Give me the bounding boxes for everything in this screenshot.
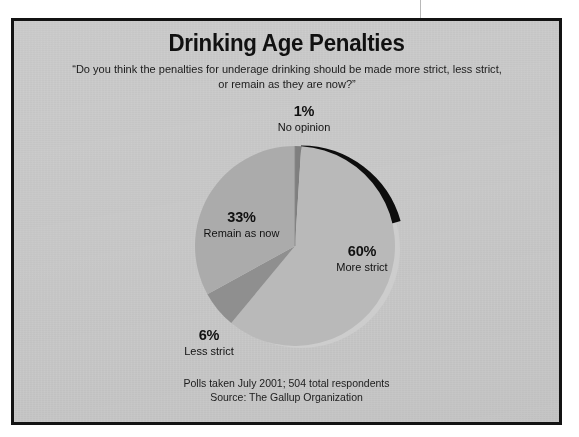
slice-name-no-opinion: No opinion <box>229 120 379 134</box>
slice-name-remain-as-now: Remain as now <box>164 226 319 240</box>
chart-subtitle-line-2: or remain as they are now?” <box>47 77 527 92</box>
slice-label-no-opinion: 1% No opinion <box>229 103 379 134</box>
chart-footer-line-1: Polls taken July 2001; 504 total respond… <box>14 376 559 390</box>
slice-name-less-strict: Less strict <box>139 344 279 358</box>
slice-label-remain-as-now: 33% Remain as now <box>164 209 319 240</box>
chart-subtitle: “Do you think the penalties for underage… <box>47 62 527 92</box>
slice-label-less-strict: 6% Less strict <box>139 327 279 358</box>
slice-value-remain-as-now: 33% <box>164 209 319 226</box>
slice-value-less-strict: 6% <box>139 327 279 344</box>
scan-line-artifact <box>420 0 421 19</box>
slice-value-more-strict: 60% <box>292 243 432 260</box>
chart-panel: Drinking Age Penalties “Do you think the… <box>11 18 562 425</box>
slice-value-no-opinion: 1% <box>229 103 379 120</box>
page-title: Drinking Age Penalties <box>33 29 540 57</box>
chart-footer: Polls taken July 2001; 504 total respond… <box>14 376 559 404</box>
chart-footer-line-2: Source: The Gallup Organization <box>14 390 559 404</box>
slice-name-more-strict: More strict <box>292 260 432 274</box>
slice-label-more-strict: 60% More strict <box>292 243 432 274</box>
chart-subtitle-line-1: “Do you think the penalties for underage… <box>47 62 527 77</box>
